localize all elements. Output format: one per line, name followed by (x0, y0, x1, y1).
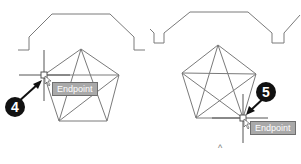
step-badge-5: 5 (256, 82, 276, 102)
right-endpoint-tooltip: Endpoint (250, 121, 296, 135)
drawing-canvas (0, 0, 301, 164)
left-endpoint-tooltip: Endpoint (52, 82, 98, 96)
right-pentagon-diagonal (218, 45, 243, 118)
right-pentagon-diagonal (182, 73, 256, 74)
left-cursor-icon (45, 76, 51, 86)
ucs-marker-icon: ^ (218, 143, 222, 153)
right-pentagon-diagonal (196, 74, 256, 118)
left-panel-geometry (18, 14, 145, 121)
right-profile-outline (150, 12, 300, 43)
right-pentagon-diagonal (196, 45, 218, 118)
right-pentagon-diagonal (182, 73, 243, 118)
left-profile-outline (18, 14, 145, 50)
step-badge-4: 4 (5, 97, 25, 117)
